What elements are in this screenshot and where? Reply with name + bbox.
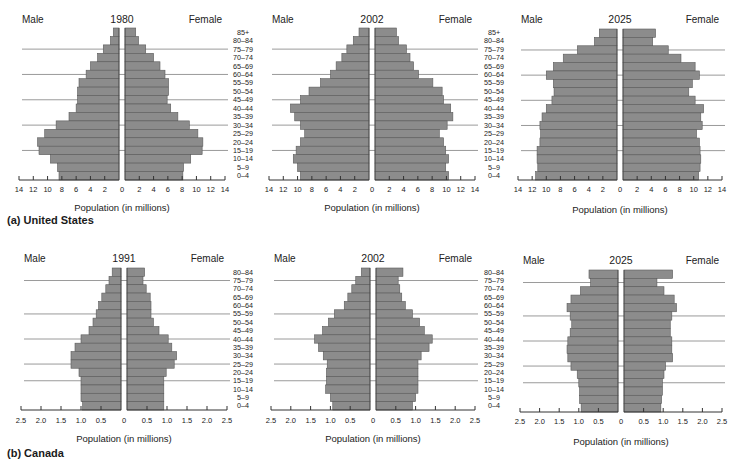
bar-female <box>624 404 661 412</box>
svg-text:0.5: 0.5 <box>593 417 603 426</box>
bar-female <box>624 370 664 378</box>
chart-title-year: 2025 <box>609 254 633 266</box>
panel-label-canada: (b) Canada <box>7 447 64 459</box>
svg-text:1.0: 1.0 <box>658 417 668 426</box>
svg-text:2.5: 2.5 <box>515 417 525 426</box>
bar-female <box>624 345 672 353</box>
svg-text:1.5: 1.5 <box>554 417 564 426</box>
svg-text:2.5: 2.5 <box>717 417 727 426</box>
bar-male <box>572 320 618 328</box>
bar-female <box>624 278 657 286</box>
bar-female <box>624 303 677 311</box>
bar-male <box>567 303 618 311</box>
svg-text:0.5: 0.5 <box>638 417 648 426</box>
svg-text:1.0: 1.0 <box>574 417 584 426</box>
bar-female <box>624 328 670 336</box>
pyramid-svg: 2.52.01.51.00.50.51.01.52.02.502025MaleF… <box>0 0 743 474</box>
bar-female <box>624 354 673 362</box>
x-axis-label: Population (in millions) <box>573 436 669 447</box>
bar-male <box>568 354 618 362</box>
bar-male <box>591 278 618 286</box>
svg-text:1.5: 1.5 <box>678 417 688 426</box>
bar-female <box>624 287 664 295</box>
pyramid-canada-2025: 2.52.01.51.00.50.51.01.52.02.502025MaleF… <box>0 0 743 474</box>
bar-male <box>580 287 618 295</box>
bar-female <box>624 295 674 303</box>
svg-text:2.0: 2.0 <box>534 417 544 426</box>
bar-male <box>581 404 618 412</box>
bar-female <box>624 337 672 345</box>
x-axis: 2.52.01.51.00.50.51.01.52.02.50 <box>515 408 727 426</box>
bar-female <box>624 387 662 395</box>
bar-male <box>579 379 618 387</box>
bar-male <box>589 270 618 278</box>
svg-text:2.0: 2.0 <box>697 417 707 426</box>
bar-male <box>568 337 618 345</box>
bar-female <box>624 395 662 403</box>
bar-female <box>624 270 673 278</box>
bar-male <box>580 395 618 403</box>
bar-male <box>577 370 618 378</box>
female-label: Female <box>686 255 720 266</box>
bar-male <box>570 312 618 320</box>
bar-female <box>624 362 666 370</box>
bar-male <box>571 362 618 370</box>
bar-male <box>580 387 618 395</box>
male-label: Male <box>523 255 545 266</box>
bar-female <box>624 312 672 320</box>
svg-text:0: 0 <box>619 417 623 426</box>
bar-male <box>570 328 618 336</box>
bar-male <box>571 295 618 303</box>
panel-label-united-states: (a) United States <box>7 214 94 226</box>
bar-female <box>624 320 670 328</box>
bar-female <box>624 379 662 387</box>
bar-male <box>567 345 618 353</box>
